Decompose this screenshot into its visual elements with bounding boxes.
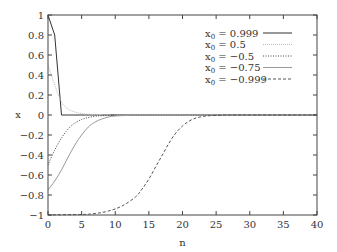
y-tick-label: −1 bbox=[29, 210, 44, 221]
y-axis-label: x bbox=[15, 109, 21, 120]
y-tick-label: −0.2 bbox=[20, 130, 44, 141]
y-tick-label: −0.4 bbox=[20, 150, 44, 161]
y-tick-label: 0.2 bbox=[28, 90, 44, 101]
y-tick-label: 0.8 bbox=[28, 30, 44, 41]
legend-label: x0 = −0.999 bbox=[205, 74, 267, 87]
x-tick-label: 5 bbox=[78, 219, 84, 230]
x-tick-label: 30 bbox=[243, 219, 256, 230]
y-tick-label: 1 bbox=[38, 10, 44, 21]
x-tick-label: 35 bbox=[277, 219, 290, 230]
x-tick-label: 10 bbox=[109, 219, 122, 230]
axis-ticks: 051015202530354010.80.60.40.20−0.2−0.4−0… bbox=[20, 10, 324, 231]
series-line-1 bbox=[48, 65, 317, 115]
x-tick-label: 0 bbox=[45, 219, 51, 230]
series-line-0 bbox=[48, 15, 317, 115]
x-axis-label: n bbox=[179, 237, 186, 248]
chart: 051015202530354010.80.60.40.20−0.2−0.4−0… bbox=[0, 0, 337, 252]
y-tick-label: 0.6 bbox=[28, 50, 44, 61]
plot-lines bbox=[48, 15, 317, 215]
y-tick-label: 0.4 bbox=[28, 70, 44, 81]
x-tick-label: 20 bbox=[176, 219, 189, 230]
y-tick-label: 0 bbox=[38, 110, 44, 121]
y-tick-label: −0.6 bbox=[20, 170, 44, 181]
x-tick-label: 15 bbox=[143, 219, 156, 230]
legend: x0 = 0.999x0 = 0.5x0 = −0.5x0 = −0.75x0 … bbox=[205, 28, 292, 87]
series-line-2 bbox=[48, 115, 317, 165]
y-tick-label: −0.8 bbox=[20, 190, 44, 201]
series-line-4 bbox=[48, 115, 317, 215]
x-tick-label: 40 bbox=[311, 219, 324, 230]
x-tick-label: 25 bbox=[210, 219, 223, 230]
legend-item: x0 = −0.999 bbox=[205, 74, 292, 87]
